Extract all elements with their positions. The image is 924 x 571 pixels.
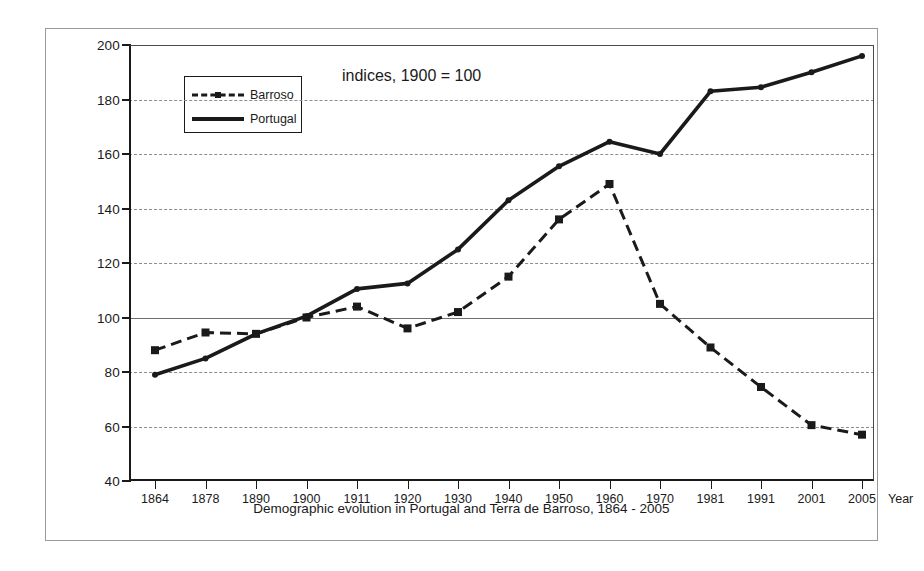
plot-frame [129,45,874,481]
x-axis-title: Year [888,492,913,506]
x-tick-mark [256,481,257,489]
x-tick-mark [509,481,510,489]
x-tick-mark [458,481,459,489]
x-tick-mark [559,481,560,489]
figure-caption: Demographic evolution in Portugal and Te… [46,501,877,516]
y-tick-label: 140 [97,201,120,216]
x-tick-mark [307,481,308,489]
x-tick-mark [408,481,409,489]
y-tick-label: 100 [97,310,120,325]
y-tick-label: 60 [105,419,120,434]
x-tick-mark [206,481,207,489]
x-tick-mark [761,481,762,489]
y-tick-label: 200 [97,38,120,53]
y-tick-label: 160 [97,147,120,162]
y-tick-label: 40 [105,474,120,489]
y-tick-label: 120 [97,256,120,271]
y-tick-label: 180 [97,92,120,107]
x-tick-mark [812,481,813,489]
plot-area: 200180160140120100806040 186418781890190… [129,45,874,481]
x-tick-mark [155,481,156,489]
chart-figure: indices, 1900 = 100 Barroso Portugal 200… [45,28,878,541]
x-tick-mark [357,481,358,489]
x-tick-mark [610,481,611,489]
x-tick-mark [660,481,661,489]
y-tick-label: 80 [105,365,120,380]
x-tick-mark [862,481,863,489]
x-tick-mark [711,481,712,489]
